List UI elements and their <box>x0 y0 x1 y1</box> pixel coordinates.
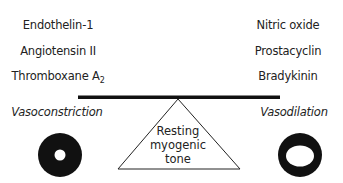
vasodilator-prostacyclin: Prostacyclin <box>255 44 322 58</box>
vasoconstrictor-endothelin: Endothelin-1 <box>23 18 94 32</box>
vasodilator-bradykinin: Bradykinin <box>258 69 317 83</box>
dilated-lumen <box>286 146 314 167</box>
vasoconstrictor-thromboxane: Thromboxane A2 <box>11 69 104 85</box>
constricted-lumen <box>55 150 66 161</box>
vasoconstrictor-angiotensin: Angiotensin II <box>20 44 96 58</box>
vasoconstriction-label: Vasoconstriction <box>11 105 102 119</box>
balance-beam <box>78 96 280 100</box>
fulcrum-label: Resting myogenic tone <box>150 124 206 166</box>
vasodilator-nitric-oxide: Nitric oxide <box>257 18 320 32</box>
vasodilation-label: Vasodilation <box>260 105 328 119</box>
